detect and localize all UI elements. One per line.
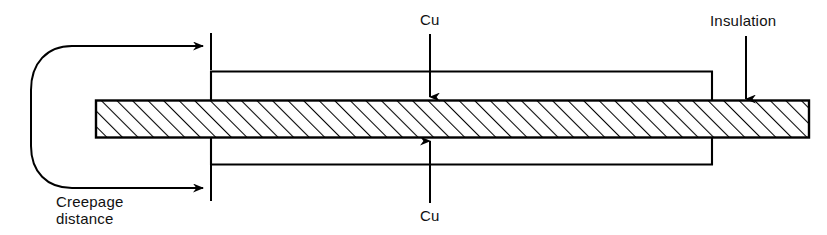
- cu-bottom-layer: [211, 138, 712, 165]
- label-cu-bottom: Cu: [420, 207, 440, 224]
- insulation-bar: [96, 101, 809, 138]
- diagram-canvas: [0, 0, 827, 235]
- label-insulation: Insulation: [710, 12, 776, 29]
- creepage-distance-diagram: Cu Cu Insulation Creepage distance: [0, 0, 827, 235]
- label-creepage-distance: Creepage distance: [56, 193, 123, 227]
- cu-top-layer: [211, 72, 712, 101]
- label-cu-top: Cu: [420, 11, 440, 28]
- label-creepage-line2: distance: [56, 210, 123, 227]
- label-creepage-line1: Creepage: [56, 193, 123, 210]
